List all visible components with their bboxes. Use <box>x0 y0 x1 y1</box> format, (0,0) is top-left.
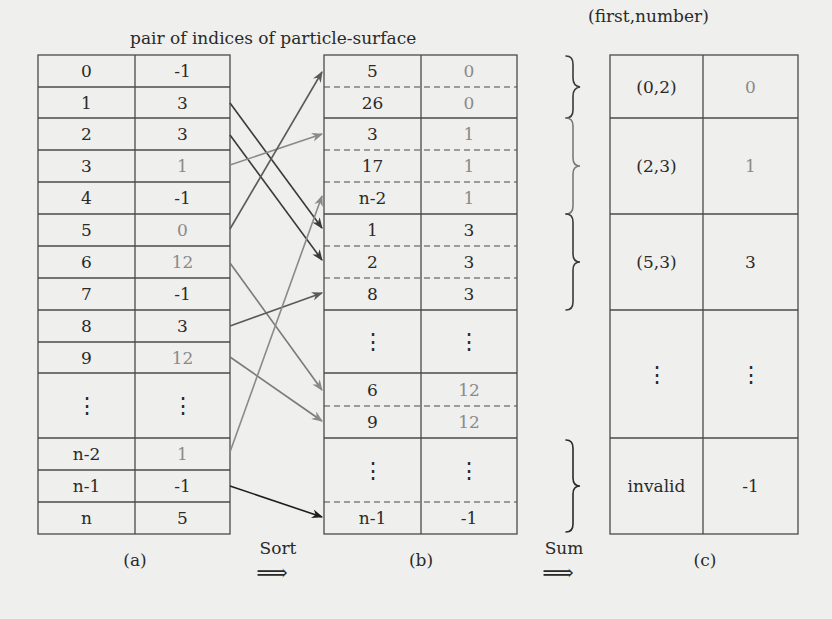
table-b-vdots: ⋮ <box>421 438 517 502</box>
table-a-cell: 5 <box>135 502 230 534</box>
table-b-cell: 26 <box>324 87 421 118</box>
table-b-cell: 1 <box>421 182 517 214</box>
table-b-cell: 6 <box>324 373 421 406</box>
table-b-cell: 1 <box>324 214 421 246</box>
table-c-cell: -1 <box>703 438 798 534</box>
table-b-cell: 17 <box>324 150 421 182</box>
sum-label: Sum <box>534 538 594 558</box>
table-c-cell: 0 <box>703 55 798 118</box>
table-a-cell: n <box>38 502 135 534</box>
table-b-cell: -1 <box>421 502 517 534</box>
table-a-cell: -1 <box>135 278 230 310</box>
caption-b: (b) <box>396 550 446 570</box>
table-a-cell: 3 <box>135 118 230 150</box>
table-b-cell: 3 <box>421 246 517 278</box>
table-a-cell: 0 <box>38 55 135 87</box>
table-b-cell: 5 <box>324 55 421 87</box>
table-b-cell: 0 <box>421 87 517 118</box>
table-c-cell: 1 <box>703 118 798 214</box>
table-a-cell: 6 <box>38 246 135 278</box>
table-a-cell: -1 <box>135 55 230 87</box>
table-a-cell: n-2 <box>38 438 135 470</box>
table-b-cell: 8 <box>324 278 421 310</box>
table-a-cell: -1 <box>135 470 230 502</box>
table-b-cell: 3 <box>421 214 517 246</box>
table-a-cell: 3 <box>38 150 135 182</box>
sort-arrow-icon: ⟹ <box>252 560 292 585</box>
table-a-cell: 1 <box>135 150 230 182</box>
table-b-vdots: ⋮ <box>421 310 517 373</box>
sum-arrow-icon: ⟹ <box>538 560 578 585</box>
sort-label: Sort <box>248 538 308 558</box>
table-a-cell: 2 <box>38 118 135 150</box>
table-a-cell: 1 <box>38 87 135 118</box>
caption-c: (c) <box>680 550 730 570</box>
table-b-vdots: ⋮ <box>324 438 421 502</box>
table-a-cell: 9 <box>38 342 135 373</box>
table-a-cell: 3 <box>135 87 230 118</box>
table-a-cell: 5 <box>38 214 135 246</box>
table-c-vdots: ⋮ <box>703 310 798 438</box>
table-a-cell: -1 <box>135 182 230 214</box>
table-c-cell: (5,3) <box>610 214 703 310</box>
table-c-cell: 3 <box>703 214 798 310</box>
table-a-vdots: ⋮ <box>38 373 135 438</box>
table-b-cell: 1 <box>421 118 517 150</box>
table-b-cell: 9 <box>324 406 421 438</box>
table-a-cell: 4 <box>38 182 135 214</box>
table-b-cell: 0 <box>421 55 517 87</box>
table-c-cell: (2,3) <box>610 118 703 214</box>
table-a-cell: 12 <box>135 246 230 278</box>
table-a-cell: 1 <box>135 438 230 470</box>
table-a-vdots: ⋮ <box>135 373 230 438</box>
table-b-cell: 3 <box>421 278 517 310</box>
table-c-vdots: ⋮ <box>610 310 703 438</box>
table-c-cell: (0,2) <box>610 55 703 118</box>
table-b-cell: n-2 <box>324 182 421 214</box>
table-b-cell: 3 <box>324 118 421 150</box>
table-b-cell: 2 <box>324 246 421 278</box>
table-a-cell: 7 <box>38 278 135 310</box>
table-a-cell: n-1 <box>38 470 135 502</box>
table-a-cell: 12 <box>135 342 230 373</box>
table-b-cell: 12 <box>421 406 517 438</box>
table-b-vdots: ⋮ <box>324 310 421 373</box>
table-c-cell: invalid <box>610 438 703 534</box>
table-b-cell: 12 <box>421 373 517 406</box>
table-a-cell: 3 <box>135 310 230 342</box>
table-a-cell: 0 <box>135 214 230 246</box>
table-b-cell: 1 <box>421 150 517 182</box>
caption-a: (a) <box>110 550 160 570</box>
table-a-cell: 8 <box>38 310 135 342</box>
table-b-cell: n-1 <box>324 502 421 534</box>
